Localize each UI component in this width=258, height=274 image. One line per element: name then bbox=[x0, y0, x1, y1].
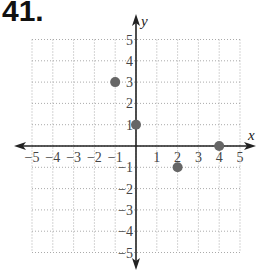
x-axis-label: x bbox=[247, 127, 255, 143]
data-point bbox=[173, 162, 183, 172]
x-tick-label: −3 bbox=[66, 150, 81, 165]
y-tick-label: −5 bbox=[118, 246, 133, 261]
data-point bbox=[110, 77, 120, 87]
x-tick-label: 3 bbox=[195, 150, 202, 165]
y-tick-label: 2 bbox=[126, 96, 133, 111]
y-tick-label: −4 bbox=[118, 224, 133, 239]
data-point bbox=[214, 141, 224, 151]
coordinate-plane: xy−5−4−3−2−11234554321−1−2−3−4−5 bbox=[0, 0, 258, 274]
y-tick-label: 3 bbox=[126, 75, 133, 90]
data-point bbox=[131, 120, 141, 130]
x-tick-label: −4 bbox=[45, 150, 60, 165]
y-axis-label: y bbox=[139, 13, 148, 29]
y-tick-label: −1 bbox=[118, 160, 133, 175]
x-tick-label: 4 bbox=[216, 150, 223, 165]
y-tick-label: −3 bbox=[118, 203, 133, 218]
y-tick-label: 5 bbox=[126, 33, 133, 48]
x-tick-label: 1 bbox=[153, 150, 160, 165]
y-tick-label: −2 bbox=[118, 182, 133, 197]
x-tick-label: 5 bbox=[237, 150, 244, 165]
x-tick-label: −2 bbox=[87, 150, 102, 165]
x-tick-label: −5 bbox=[25, 150, 40, 165]
y-tick-label: 4 bbox=[126, 54, 133, 69]
